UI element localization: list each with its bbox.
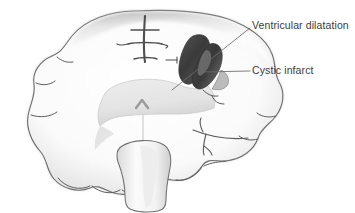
label-ventricular-dilatation: Ventricular dilatation [252,19,349,31]
brain-illustration-figure: Ventricular dilatation Cystic infarct [0,0,355,213]
coronal-brain-section-diagram [0,0,355,213]
interhemispheric-fissure [144,16,145,62]
label-cystic-infarct: Cystic infarct [252,64,314,76]
brainstem [117,141,171,212]
